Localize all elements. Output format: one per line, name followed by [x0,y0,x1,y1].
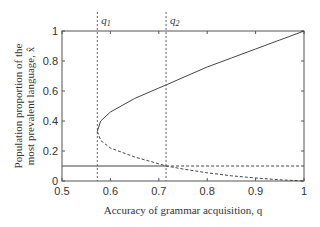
y-tick-label: 0.4 [43,115,58,127]
y-tick-label: 0.8 [43,55,58,67]
y-tick-label: 1 [52,25,58,37]
axes-frame [62,31,304,181]
y-tick-label: 0 [52,175,58,187]
bifurcation-chart: 0.50.60.70.80.9100.20.40.60.81q1q2 Accur… [0,0,320,227]
y-tick-label: 0.2 [43,145,58,157]
y-tick-label: 0.6 [43,85,58,97]
y-axis-title-group: Population proportion of the most preval… [12,43,36,168]
plot-area: 0.50.60.70.80.9100.20.40.60.81q1q2 [43,12,307,197]
y-axis-title-line2: most prevalent language, x̂ [24,46,36,165]
series-line-0 [97,31,304,132]
x-axis-title: Accuracy of grammar acquisition, q [104,204,263,216]
x-tick-label: 0.8 [200,185,215,197]
annotation-label-q1: q1 [101,14,111,28]
x-tick-label: 1 [301,185,307,197]
annotation-label-q2: q2 [170,14,180,28]
series-line-1 [97,132,304,182]
y-axis-title-line1: Population proportion of the [12,43,24,168]
x-tick-label: 0.9 [248,185,263,197]
x-tick-label: 0.7 [151,185,166,197]
x-tick-label: 0.6 [103,185,118,197]
